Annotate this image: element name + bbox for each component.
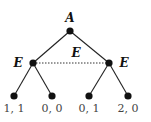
- game-tree: A E E E 1, 1 0, 0 0, 1 2, 0: [0, 0, 151, 122]
- payoff-leaf-4: 2, 0: [118, 102, 139, 115]
- leaf-node-3: [85, 92, 92, 99]
- root-label: A: [64, 11, 74, 25]
- root-node: [66, 27, 73, 34]
- information-set-label: E: [70, 46, 81, 60]
- right-node-label: E: [118, 56, 129, 70]
- leaf-node-4: [124, 92, 131, 99]
- payoff-leaf-2: 0, 0: [42, 102, 63, 115]
- leaf-node-1: [10, 92, 17, 99]
- decision-node-right: [105, 59, 112, 66]
- decision-node-left: [29, 59, 36, 66]
- edge-root-left: [33, 31, 70, 63]
- edge-left-leaf2: [33, 63, 52, 96]
- payoff-leaf-1: 1, 1: [4, 102, 25, 115]
- payoff-leaf-3: 0, 1: [79, 102, 100, 115]
- left-node-label: E: [12, 56, 23, 70]
- edge-right-leaf3: [89, 63, 109, 96]
- leaf-node-2: [48, 92, 55, 99]
